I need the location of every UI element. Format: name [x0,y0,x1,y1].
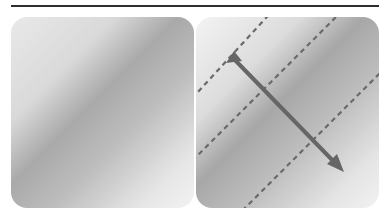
gradient-panel-right [196,17,379,208]
gradient-panel-left [11,17,194,208]
dashed-line-middle [196,17,346,167]
gradient-direction-overlay [196,17,379,208]
top-rule [11,5,379,7]
